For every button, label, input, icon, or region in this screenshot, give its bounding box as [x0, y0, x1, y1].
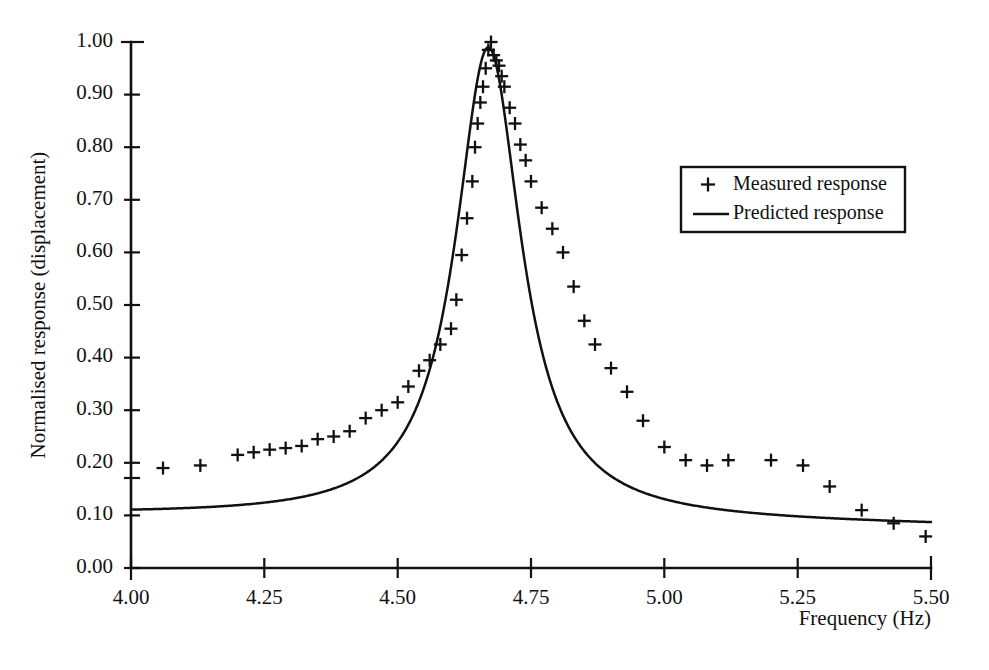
data-point-marker — [477, 80, 490, 93]
x-tick-label: 5.00 — [646, 585, 683, 609]
y-tick-label: 0.40 — [76, 343, 113, 367]
data-point-marker — [311, 433, 324, 446]
data-point-marker — [567, 280, 580, 293]
data-point-marker — [919, 530, 932, 543]
legend-label-measured: Measured response — [733, 172, 887, 195]
data-point-marker — [279, 442, 292, 455]
data-point-marker — [797, 459, 810, 472]
data-point-marker — [535, 201, 548, 214]
data-point-marker — [578, 314, 591, 327]
y-tick-label: 0.00 — [76, 554, 113, 578]
data-point-marker — [343, 425, 356, 438]
x-tick-label: 4.50 — [379, 585, 416, 609]
data-point-marker — [474, 96, 487, 109]
data-point-marker — [263, 443, 276, 456]
data-point-marker — [359, 412, 372, 425]
data-point-marker — [450, 293, 463, 306]
y-tick-label: 0.90 — [76, 80, 113, 104]
y-tick-label: 0.30 — [76, 396, 113, 420]
data-point-marker — [701, 459, 714, 472]
data-point-marker — [637, 414, 650, 427]
data-point-marker — [466, 175, 479, 188]
chart-legend: Measured response Predicted response — [681, 167, 905, 232]
data-point-marker — [445, 322, 458, 335]
data-point-marker — [455, 249, 468, 262]
data-point-marker — [765, 454, 778, 467]
y-tick-label: 0.60 — [76, 238, 113, 262]
data-point-marker — [823, 480, 836, 493]
data-point-marker — [546, 222, 559, 235]
data-point-marker — [605, 362, 618, 375]
data-point-marker — [402, 380, 415, 393]
y-axis-tick-labels: 1.00 0.90 0.80 0.70 0.60 0.50 0.40 0.30 … — [76, 28, 113, 578]
data-point-marker — [887, 517, 900, 530]
data-point-marker — [247, 446, 260, 459]
y-tick-label: 0.10 — [76, 501, 113, 525]
data-point-marker — [461, 212, 474, 225]
data-point-marker — [519, 154, 532, 167]
data-point-marker — [557, 246, 570, 259]
data-point-marker — [194, 459, 207, 472]
data-point-marker — [391, 396, 404, 409]
x-tick-label: 4.25 — [246, 585, 283, 609]
data-point-marker — [679, 454, 692, 467]
x-tick-label: 4.00 — [113, 585, 150, 609]
data-point-marker — [722, 454, 735, 467]
measured-response-points — [157, 36, 933, 543]
data-point-marker — [621, 385, 634, 398]
legend-label-predicted: Predicted response — [733, 201, 884, 224]
data-point-marker — [327, 430, 340, 443]
frequency-response-chart: 1.00 0.90 0.80 0.70 0.60 0.50 0.40 0.30 … — [0, 0, 989, 670]
data-point-marker — [157, 462, 170, 475]
data-point-marker — [509, 117, 522, 130]
chart-figure: 1.00 0.90 0.80 0.70 0.60 0.50 0.40 0.30 … — [0, 0, 989, 670]
data-point-marker — [469, 141, 482, 154]
predicted-response-curve — [131, 47, 931, 522]
data-point-marker — [485, 36, 498, 49]
x-axis-title: Frequency (Hz) — [799, 606, 931, 630]
x-tick-label: 4.75 — [513, 585, 550, 609]
data-point-marker — [231, 448, 244, 461]
y-tick-label: 0.70 — [76, 186, 113, 210]
data-point-marker — [413, 364, 426, 377]
y-axis-title: Normalised response (displacement) — [26, 152, 50, 459]
y-tick-label: 0.50 — [76, 291, 113, 315]
data-point-marker — [514, 138, 527, 151]
data-point-marker — [471, 117, 484, 130]
y-tick-label: 0.80 — [76, 133, 113, 157]
data-point-marker — [525, 175, 538, 188]
y-tick-label: 1.00 — [76, 28, 113, 52]
data-point-marker — [855, 504, 868, 517]
y-tick-label: 0.20 — [76, 449, 113, 473]
x-axis — [131, 556, 931, 580]
data-point-marker — [375, 404, 388, 417]
y-axis — [121, 42, 144, 568]
data-point-marker — [589, 338, 602, 351]
data-point-marker — [295, 439, 308, 452]
data-point-marker — [658, 441, 671, 454]
